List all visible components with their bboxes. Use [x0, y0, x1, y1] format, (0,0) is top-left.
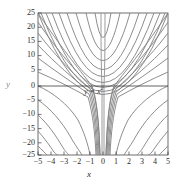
y-tick-label-neg20: −20 — [12, 139, 35, 147]
curve-equation-exponent: 2 — [101, 85, 104, 91]
y-tick-label-5: 5 — [12, 66, 35, 74]
y-tick-label-neg15: −15 — [12, 125, 35, 133]
y-axis-title: y — [2, 80, 14, 89]
y-tick-label-neg5: −5 — [12, 96, 35, 104]
x-tick-label-0: 0 — [96, 158, 110, 166]
x-tick-label-5: 5 — [161, 158, 175, 166]
y-tick-label-20: 20 — [12, 23, 35, 31]
figure-container: 25 20 15 10 5 0 −5 −10 −15 −20 −25 −5 −4… — [0, 0, 178, 186]
x-axis-title: x — [0, 170, 178, 179]
plot-frame — [38, 13, 168, 155]
y-tick-label-15: 15 — [12, 37, 35, 45]
y-tick-label-25: 25 — [12, 9, 35, 17]
curve-equation-annotation: y = x2 — [84, 88, 104, 96]
y-tick-label-neg10: −10 — [12, 110, 35, 118]
x-tick-label-1: 1 — [109, 158, 123, 166]
curve-equation-base: y = x — [84, 87, 101, 96]
y-tick-label-0: 0 — [12, 82, 35, 90]
x-tick-label-4: 4 — [148, 158, 162, 166]
y-tick-label-10: 10 — [12, 51, 35, 59]
x-tick-label-2: 2 — [122, 158, 136, 166]
x-tick-label-3: 3 — [135, 158, 149, 166]
